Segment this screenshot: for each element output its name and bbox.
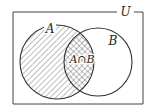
venn-diagram: U A B A∩B xyxy=(0,0,150,112)
intersection-label: A∩B xyxy=(68,53,94,66)
set-a-label: A xyxy=(45,22,55,36)
universe-label: U xyxy=(120,5,131,19)
set-b-label: B xyxy=(108,34,118,48)
